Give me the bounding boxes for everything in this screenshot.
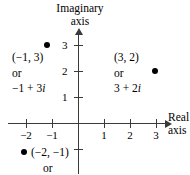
annotation-or-left: or [12, 66, 45, 82]
data-point-neg2-neg1 [21, 149, 27, 155]
annotation-coordinate-neg1-3: (−1, 3) [12, 50, 45, 66]
imaginary-axis-tick-label-3: 3 [62, 40, 68, 51]
imaginary-axis-line [78, 33, 79, 174]
real-axis-tick-label-3: 3 [153, 130, 159, 141]
imaginary-axis-tick-label-1: 1 [62, 92, 68, 103]
real-axis-tick-2 [130, 119, 131, 128]
imaginary-axis-label: Imaginary axis [50, 2, 110, 28]
imaginary-axis-label-line2: axis [50, 15, 110, 28]
annotation-or-bottom: or [31, 161, 69, 175]
annotation-point-neg2-neg1: (−2, −1) or [31, 145, 69, 174]
annotation-coordinate-3-2: (3, 2) [114, 50, 141, 66]
real-axis-tick-neg2 [26, 119, 27, 128]
real-axis-label-line1: Real [168, 111, 190, 124]
real-axis-tick-label-1: 1 [101, 130, 107, 141]
annotation-point-3-2: (3, 2) or 3 + 2i [114, 50, 141, 97]
real-axis-tick-3 [156, 119, 157, 128]
imaginary-axis-tick-label-2: 2 [62, 66, 68, 77]
annotation-or-right: or [114, 66, 141, 82]
imaginary-axis-label-line1: Imaginary [50, 2, 110, 15]
real-axis-tick-neg1 [52, 119, 53, 128]
real-axis-label-line2: axis [168, 124, 190, 137]
annotation-coordinate-neg2-neg1: (−2, −1) [31, 145, 69, 161]
real-axis-label: Real axis [168, 111, 190, 137]
real-axis-tick-label-neg2: −2 [20, 130, 32, 141]
data-point-3-2 [152, 68, 158, 74]
real-axis-tick-1 [104, 119, 105, 128]
imaginary-axis-tick-2 [74, 71, 83, 72]
data-point-neg1-3 [44, 42, 50, 48]
imaginary-axis-tick-neg1 [74, 149, 83, 150]
annotation-complex-3-2: 3 + 2i [114, 81, 141, 97]
imaginary-unit-icon: i [42, 82, 45, 94]
imaginary-axis-tick-1 [74, 97, 83, 98]
real-axis-line [8, 123, 166, 124]
annotation-complex-neg1-3: −1 + 3i [12, 81, 45, 97]
imaginary-unit-icon: i [138, 82, 141, 94]
annotation-complex-3-2-prefix: 3 + 2 [114, 82, 138, 94]
real-axis-tick-label-2: 2 [127, 130, 133, 141]
complex-plane-figure: −2 −1 1 2 3 3 2 1 Imaginary axis Real ax… [0, 0, 190, 174]
real-axis-tick-label-neg1: −1 [46, 130, 58, 141]
imaginary-axis-arrow-icon [75, 28, 83, 35]
imaginary-axis-tick-3 [74, 45, 83, 46]
annotation-point-neg1-3: (−1, 3) or −1 + 3i [12, 50, 45, 97]
annotation-complex-neg1-3-prefix: −1 + 3 [12, 82, 42, 94]
